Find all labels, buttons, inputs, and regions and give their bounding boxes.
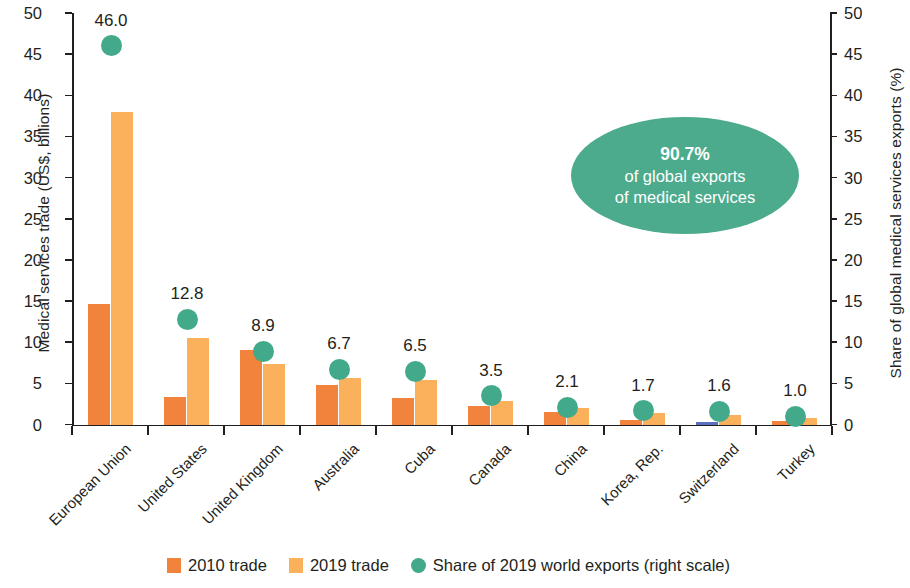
legend-label: 2010 trade	[188, 556, 267, 575]
callout-percent: 90.7%	[660, 143, 710, 165]
axis-tick	[65, 383, 72, 385]
axis-tick	[830, 177, 837, 179]
x-axis-tick	[299, 426, 301, 435]
axis-tick-label: 15	[844, 293, 904, 310]
axis-tick	[830, 95, 837, 97]
axis-tick	[830, 300, 837, 302]
x-axis-tick	[527, 426, 529, 435]
axis-tick	[830, 136, 837, 138]
axis-tick-label: 20	[0, 252, 42, 269]
axis-tick-label: 20	[844, 252, 904, 269]
legend-square-icon	[167, 558, 181, 573]
x-axis-tick	[223, 426, 225, 435]
axis-tick	[830, 53, 837, 55]
legend-square-icon	[289, 558, 303, 573]
bar-2019	[415, 380, 437, 424]
share-marker	[785, 406, 806, 427]
chart-legend: 2010 trade2019 tradeShare of 2019 world …	[0, 556, 910, 575]
bar-2019	[339, 378, 361, 424]
data-point-label: 12.8	[152, 285, 222, 302]
axis-tick	[830, 341, 837, 343]
axis-tick-label: 15	[0, 293, 42, 310]
axis-tick	[65, 95, 72, 97]
share-marker	[101, 35, 122, 56]
axis-tick-label: 0	[0, 417, 42, 434]
axis-tick-label: 45	[0, 46, 42, 63]
axis-tick-label: 10	[844, 334, 904, 351]
axis-tick	[65, 177, 72, 179]
axis-tick	[65, 300, 72, 302]
legend-circle-icon	[411, 558, 426, 573]
bar-2010	[88, 304, 110, 425]
data-point-label: 8.9	[228, 317, 298, 334]
axis-tick	[65, 259, 72, 261]
data-point-label: 46.0	[76, 12, 146, 29]
share-marker	[329, 359, 350, 380]
legend-item: 2010 trade	[167, 556, 267, 575]
axis-tick-label: 35	[0, 128, 42, 145]
axis-tick-label: 45	[844, 46, 904, 63]
axis-tick	[65, 12, 72, 14]
axis-tick-label: 50	[844, 5, 904, 22]
axis-tick-label: 30	[844, 170, 904, 187]
bar-2010	[240, 350, 262, 424]
y-axis-left-line	[72, 13, 74, 426]
data-point-label: 1.6	[684, 377, 754, 394]
axis-tick	[65, 53, 72, 55]
callout-line-1: of global exports	[624, 166, 745, 187]
axis-tick-label: 5	[844, 375, 904, 392]
data-point-label: 2.1	[532, 373, 602, 390]
x-axis-tick	[451, 426, 453, 435]
bar-2019	[263, 364, 285, 425]
x-axis-tick	[71, 426, 73, 435]
data-point-label: 1.7	[608, 377, 678, 394]
axis-tick-label: 25	[0, 211, 42, 228]
share-marker	[405, 361, 426, 382]
axis-tick-label: 0	[844, 417, 904, 434]
axis-tick	[830, 383, 837, 385]
share-marker	[557, 397, 578, 418]
bar-2010	[164, 397, 186, 425]
axis-tick-label: 40	[0, 87, 42, 104]
axis-tick-label: 5	[0, 375, 42, 392]
axis-tick	[830, 12, 837, 14]
axis-tick-label: 25	[844, 211, 904, 228]
chart-figure: Medical services trade (US$, billions) S…	[0, 0, 910, 588]
share-marker	[633, 400, 654, 421]
bar-2010	[620, 420, 642, 424]
axis-tick	[830, 218, 837, 220]
data-point-label: 6.5	[380, 337, 450, 354]
axis-tick	[65, 218, 72, 220]
bar-2010	[468, 406, 490, 425]
data-point-label: 6.7	[304, 335, 374, 352]
x-axis-tick	[603, 426, 605, 435]
axis-tick	[65, 341, 72, 343]
axis-tick-label: 10	[0, 334, 42, 351]
x-axis-tick	[831, 426, 833, 435]
bar-2010	[392, 398, 414, 424]
axis-tick-label: 35	[844, 128, 904, 145]
axis-tick-label: 40	[844, 87, 904, 104]
x-axis-tick	[755, 426, 757, 435]
x-axis-tick	[679, 426, 681, 435]
axis-tick	[830, 259, 837, 261]
bar-2019	[111, 112, 133, 425]
legend-item: 2019 trade	[289, 556, 389, 575]
bar-2019	[187, 338, 209, 424]
bar-2010	[316, 385, 338, 425]
share-marker	[709, 401, 730, 422]
legend-item: Share of 2019 world exports (right scale…	[411, 556, 730, 575]
share-callout: 90.7% of global exports of medical servi…	[571, 117, 799, 234]
share-marker	[177, 309, 198, 330]
share-marker	[253, 341, 274, 362]
legend-label: Share of 2019 world exports (right scale…	[433, 556, 730, 575]
data-point-label: 1.0	[760, 382, 830, 399]
axis-tick	[65, 136, 72, 138]
legend-label: 2019 trade	[310, 556, 389, 575]
axis-tick-label: 50	[0, 5, 42, 22]
bar-2010	[696, 422, 718, 425]
data-point-label: 3.5	[456, 362, 526, 379]
x-axis-tick	[147, 426, 149, 435]
callout-line-2: of medical services	[615, 187, 755, 208]
axis-tick-label: 30	[0, 170, 42, 187]
